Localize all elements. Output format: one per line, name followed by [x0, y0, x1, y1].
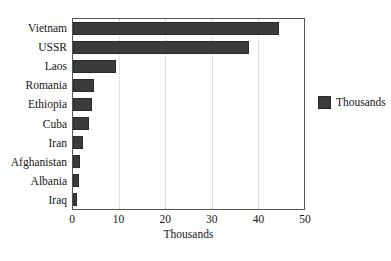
bar-albania[interactable]	[73, 174, 79, 187]
bar-romania[interactable]	[73, 79, 94, 92]
category-label-ethiopia: Ethiopia	[28, 98, 70, 110]
category-label-albania: Albania	[31, 175, 70, 187]
category-label-ussr: USSR	[38, 41, 70, 53]
bar-row	[73, 57, 304, 76]
x-tick-label-30: 30	[206, 212, 218, 226]
bar-chart: Vietnam USSR Laos Romania Ethiopia Cuba …	[0, 0, 391, 261]
x-tick-label-10: 10	[113, 212, 125, 226]
bars-layer	[73, 19, 304, 209]
bar-cuba[interactable]	[73, 117, 89, 130]
bar-ethiopia[interactable]	[73, 98, 92, 111]
bar-row	[73, 19, 304, 38]
category-label-iran: Iran	[48, 137, 70, 149]
bar-iran[interactable]	[73, 136, 83, 149]
bar-row	[73, 171, 304, 190]
x-tick-label-40: 40	[253, 212, 265, 226]
category-label-romania: Romania	[25, 79, 70, 91]
bar-row	[73, 38, 304, 57]
category-label-afghanistan: Afghanistan	[11, 156, 70, 168]
bar-vietnam[interactable]	[73, 22, 279, 35]
bar-row	[73, 76, 304, 95]
x-axis-ticks: 01020304050	[72, 212, 305, 228]
bar-row	[73, 190, 304, 209]
bar-laos[interactable]	[73, 60, 116, 73]
x-tick-label-50: 50	[299, 212, 311, 226]
bar-row	[73, 95, 304, 114]
legend-label-thousands: Thousands	[336, 96, 386, 109]
category-label-iraq: Iraq	[48, 194, 70, 206]
plot-area	[72, 18, 305, 210]
x-tick-label-20: 20	[159, 212, 171, 226]
bar-ussr[interactable]	[73, 41, 249, 54]
bar-row	[73, 152, 304, 171]
category-axis: Vietnam USSR Laos Romania Ethiopia Cuba …	[0, 18, 70, 210]
category-label-laos: Laos	[45, 60, 70, 72]
x-axis-title: Thousands	[72, 228, 305, 240]
bar-row	[73, 133, 304, 152]
category-label-cuba: Cuba	[43, 118, 70, 130]
bar-afghanistan[interactable]	[73, 155, 80, 168]
x-tick-label-0: 0	[69, 212, 75, 226]
bar-iraq[interactable]	[73, 193, 77, 206]
bar-row	[73, 114, 304, 133]
legend: Thousands	[318, 96, 386, 109]
legend-swatch-thousands	[318, 96, 331, 109]
category-label-vietnam: Vietnam	[28, 22, 70, 34]
